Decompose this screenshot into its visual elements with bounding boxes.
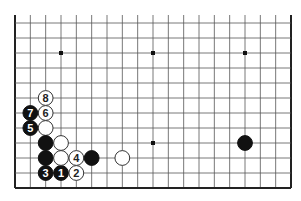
black-stone [238, 136, 253, 151]
star-point [243, 51, 247, 55]
star-point [151, 141, 155, 145]
stone-disc [38, 136, 53, 151]
stone-disc [38, 121, 53, 136]
move-number: 6 [43, 107, 49, 119]
star-point [59, 51, 63, 55]
go-board: 12345678 [0, 0, 301, 201]
white-stone: 4 [69, 151, 84, 166]
black-stone: 7 [23, 106, 38, 121]
white-stone: 8 [38, 91, 53, 106]
move-number: 3 [43, 167, 49, 179]
black-stone: 5 [23, 121, 38, 136]
stone-disc [238, 136, 253, 151]
move-number: 4 [73, 152, 80, 164]
black-stone [84, 151, 99, 166]
star-point [151, 51, 155, 55]
white-stone [54, 136, 69, 151]
black-stone [38, 136, 53, 151]
stone-disc [84, 151, 99, 166]
move-number: 8 [43, 92, 49, 104]
white-stone [54, 151, 69, 166]
move-number: 2 [73, 167, 79, 179]
move-number: 7 [27, 107, 33, 119]
white-stone: 2 [69, 166, 84, 181]
move-number: 1 [58, 167, 64, 179]
black-stone: 3 [38, 166, 53, 181]
move-number: 5 [27, 122, 33, 134]
white-stone [115, 151, 130, 166]
white-stone: 6 [38, 106, 53, 121]
stone-disc [54, 151, 69, 166]
stone-disc [54, 136, 69, 151]
stone-disc [38, 151, 53, 166]
black-stone [38, 151, 53, 166]
black-stone: 1 [54, 166, 69, 181]
stone-disc [115, 151, 130, 166]
white-stone [38, 121, 53, 136]
